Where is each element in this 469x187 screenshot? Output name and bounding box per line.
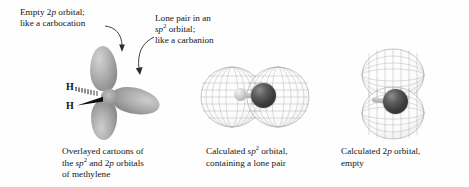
text: orbital; <box>166 24 195 34</box>
lone-pair-annotation-line2: sp2 orbital; <box>155 24 214 35</box>
carbon-sphere <box>383 89 408 114</box>
panel-3-caption-line1: Calculated 2p orbital, <box>341 146 420 158</box>
panel-2-caption-line1: Calculated sp2 orbital, <box>206 146 288 158</box>
hydrogen-label-back: H <box>66 81 74 92</box>
empty-2p-annotation-line1: Empty 2p orbital; <box>20 7 85 18</box>
lone-pair-annotation: Lone pair in an sp2 orbital; like a carb… <box>155 13 214 47</box>
italic-sp: sp <box>76 158 84 168</box>
curved-arrow-to-sp2-lobe-icon <box>131 35 157 80</box>
text: the <box>62 158 76 168</box>
text: orbital, <box>392 146 421 156</box>
panel-1-caption-line2: the sp2 and 2p orbitals <box>62 158 144 170</box>
text: Empty 2 <box>20 7 51 17</box>
text: orbitals <box>114 158 144 168</box>
panel-1-caption: Overlayed cartoons of the sp2 and 2p orb… <box>62 146 144 181</box>
empty-2p-annotation-line2: like a carbocation <box>20 18 85 29</box>
panel-1-caption-line3: of methylene <box>62 169 144 181</box>
text: and 2 <box>87 158 109 168</box>
solid-wedge-bond-icon <box>76 95 108 111</box>
text: orbital; <box>56 7 85 17</box>
lone-pair-annotation-line3: like a carbanion <box>155 35 214 46</box>
text: Calculated 2 <box>341 146 387 156</box>
panel-3-caption: Calculated 2p orbital, empty <box>341 146 420 169</box>
methylene-orbital-figure: Empty 2p orbital; like a carbocation Lon… <box>0 0 469 187</box>
carbon-sphere <box>251 83 276 108</box>
panel-2-caption-line2: containing a lone pair <box>206 158 288 170</box>
empty-2p-annotation: Empty 2p orbital; like a carbocation <box>20 7 85 29</box>
panel-3-caption-line2: empty <box>341 158 420 170</box>
hydrogen-label-front: H <box>66 100 74 111</box>
italic-sp: sp <box>155 24 163 34</box>
panel-2-caption: Calculated sp2 orbital, containing a lon… <box>206 146 288 169</box>
text: orbital, <box>259 146 288 156</box>
italic-sp: sp <box>248 146 256 156</box>
panel-1-caption-line1: Overlayed cartoons of <box>62 146 144 158</box>
hydrogen-sphere <box>234 88 247 101</box>
text: Calculated <box>206 146 248 156</box>
